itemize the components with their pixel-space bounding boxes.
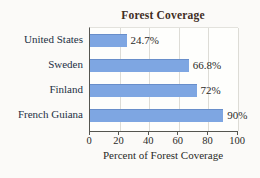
- plot-area: 24.7% 66.8% 72% 90%: [89, 27, 238, 132]
- category-label-united-states: United States: [0, 33, 85, 46]
- category-label-french-guiana: French Guiana: [0, 108, 85, 121]
- tick-label: 80: [202, 135, 213, 146]
- bar-united-states: [90, 34, 127, 47]
- bar-value-french-guiana: 90%: [227, 109, 247, 122]
- category-axis-labels: United States Sweden Finland French Guia…: [0, 27, 85, 130]
- bar-row: 66.8%: [90, 59, 238, 72]
- bar-value-sweden: 66.8%: [193, 59, 221, 72]
- x-axis-ticks: 0 20 40 60 80 100: [89, 131, 237, 149]
- bar-row: 72%: [90, 84, 238, 97]
- chart-title: Forest Coverage: [63, 9, 260, 21]
- bar-row: 90%: [90, 109, 238, 122]
- bar-row: 24.7%: [90, 34, 238, 47]
- tick-label: 60: [173, 135, 184, 146]
- category-label-finland: Finland: [0, 83, 85, 96]
- x-axis-title: Percent of Forest Coverage: [89, 149, 237, 161]
- tick-label: 40: [143, 135, 154, 146]
- tick-label: 20: [113, 135, 124, 146]
- bar-sweden: [90, 59, 189, 72]
- tick-label: 100: [229, 135, 245, 146]
- forest-coverage-bar-chart: Forest Coverage United States Sweden Fin…: [0, 0, 260, 178]
- bar-french-guiana: [90, 109, 223, 122]
- bar-value-united-states: 24.7%: [131, 34, 159, 47]
- bar-finland: [90, 84, 197, 97]
- bar-value-finland: 72%: [201, 84, 221, 97]
- category-label-sweden: Sweden: [0, 58, 85, 71]
- tick-label: 0: [86, 135, 91, 146]
